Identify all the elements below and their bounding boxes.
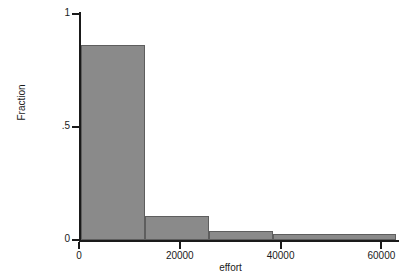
y-tick-label: 0	[64, 233, 70, 244]
x-tick-label: 60000	[367, 250, 395, 261]
x-tick-label: 40000	[267, 250, 295, 261]
x-axis-title-text: effort	[219, 262, 242, 273]
histogram-figure: 0.51 0200004000060000 Fraction effort	[0, 0, 411, 276]
plot-area	[79, 14, 399, 240]
y-tick-label: .5	[62, 120, 70, 131]
x-axis-title: effort	[0, 262, 411, 273]
x-tick-mark	[280, 242, 282, 249]
histogram-bar	[81, 45, 145, 240]
y-tick-mark	[72, 126, 80, 128]
x-tick-label: 20000	[166, 250, 194, 261]
x-tick-mark	[380, 242, 382, 249]
y-tick-mark	[72, 239, 80, 241]
histogram-bar	[145, 216, 209, 240]
x-axis-line	[79, 240, 399, 242]
y-tick-mark	[72, 13, 80, 15]
y-axis-title: Fraction	[16, 99, 27, 121]
histogram-bar	[209, 231, 273, 240]
x-tick-label: 0	[76, 250, 82, 261]
x-tick-mark	[179, 242, 181, 249]
x-tick-mark	[78, 242, 80, 249]
y-tick-label: 1	[64, 7, 70, 18]
